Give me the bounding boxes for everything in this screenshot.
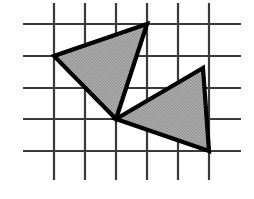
- figure-root: [0, 0, 254, 199]
- geometry-figure: [0, 0, 254, 199]
